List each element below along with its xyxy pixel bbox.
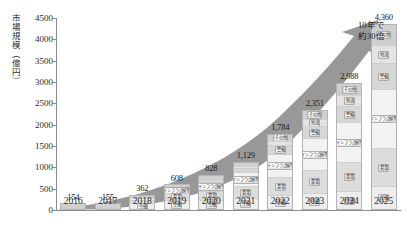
bar-group[interactable]: インフラ点検等農業空撮1,129	[229, 18, 264, 210]
bar-segment[interactable]: 警備	[303, 126, 327, 138]
y-axis-tick-label: 3500	[35, 55, 53, 65]
x-axis-tick-label: 2021	[236, 196, 255, 206]
x-axis-tick-label: 2025	[374, 196, 393, 206]
x-axis-tick-label: 2023	[305, 196, 324, 206]
bar-group[interactable]: インフラ点検等農業空撮828	[194, 18, 229, 210]
bar-segment-label: 農業	[275, 183, 286, 190]
bar-segment[interactable]: インフラ点検等	[268, 154, 292, 177]
bar-segment[interactable]: 物流	[372, 45, 396, 63]
bar-segment[interactable]: インフラ点検等	[234, 172, 258, 185]
bar-segment-label: 農業	[378, 164, 389, 171]
bar-segment[interactable]: インフラ点検等	[337, 122, 361, 162]
stacked-bar[interactable]: その他物流警備インフラ点検等農業空撮	[336, 83, 362, 210]
x-axis-line	[56, 210, 401, 211]
bar-segment[interactable]: 農業	[268, 177, 292, 196]
bar-segment-label: 警備	[378, 73, 389, 80]
annotation-line-1: 10年で	[358, 20, 385, 31]
bar-segment-label: 警備	[344, 111, 355, 118]
bar-segment[interactable]: 農業	[372, 148, 396, 186]
bar-segment[interactable]: 農業	[303, 170, 327, 193]
bar-segment[interactable]: 警備	[268, 145, 292, 154]
bar-group[interactable]: 154	[56, 18, 91, 210]
bar-segment-label: 警備	[275, 146, 286, 153]
bar-segment[interactable]	[96, 208, 120, 209]
y-axis-tick-label: 500	[40, 183, 54, 193]
bar-segment[interactable]	[61, 208, 85, 209]
bar-segment-label: インフラ点検等	[198, 183, 224, 190]
bar-segment-label: 物流	[344, 97, 355, 104]
bar-segment-label: インフラ点検等	[267, 162, 293, 169]
bar-segment-label: インフラ点検等	[336, 139, 362, 146]
y-axis-tick-label: 2500	[35, 98, 53, 108]
bar-value-label: 2,988	[340, 71, 358, 81]
bar-value-label: 362	[136, 183, 148, 193]
y-axis-tick-mark	[53, 210, 56, 211]
x-axis-tick-label: 2018	[133, 196, 152, 206]
bar-group[interactable]: その他物流警備インフラ点検等農業空撮2,351	[298, 18, 333, 210]
bar-segment-label: 物流	[378, 51, 389, 58]
bar-group[interactable]: インフラ点検等農業空撮608	[160, 18, 195, 210]
bar-segment-label: インフラ点検等	[371, 116, 397, 123]
bar-segment[interactable]: 警備	[372, 63, 396, 89]
bar-group[interactable]: その他物流警備インフラ点検等農業空撮4,360	[367, 18, 402, 210]
drone-market-size-chart: 市場規模（億円） 0500100015002000250030003500400…	[0, 0, 407, 243]
stacked-bar[interactable]: その他物流警備インフラ点検等農業空撮	[371, 24, 397, 210]
bar-segment-label: インフラ点検等	[233, 176, 259, 183]
bar-segment[interactable]: インフラ点検等	[372, 89, 396, 148]
x-axis-tick-label: 2024	[340, 196, 359, 206]
bar-segment-label: その他	[307, 111, 322, 118]
annotation-line-2: 約30倍	[358, 31, 385, 42]
bar-segment[interactable]: インフラ点検等	[303, 138, 327, 170]
bar-segment-label: インフラ点検等	[302, 151, 328, 158]
bar-segment[interactable]: インフラ点検等	[199, 182, 223, 191]
bar-segment[interactable]: 警備	[337, 106, 361, 122]
plot-area: 050010001500200025003000350040004500 154…	[56, 18, 401, 210]
x-axis-tick-label: 2017	[98, 196, 117, 206]
y-axis-tick-label: 1500	[35, 141, 53, 151]
bar-value-label: 608	[171, 173, 183, 183]
y-axis-tick-label: 3000	[35, 77, 53, 87]
growth-annotation: 10年で 約30倍	[358, 20, 385, 41]
bar-group[interactable]: 155	[91, 18, 126, 210]
bar-group[interactable]: その他警備インフラ点検等農業空撮1,784	[263, 18, 298, 210]
x-axis-tick-label: 2022	[271, 196, 290, 206]
y-axis-tick-label: 4500	[35, 13, 53, 23]
bar-group[interactable]: その他物流警備インフラ点検等農業空撮2,988	[332, 18, 367, 210]
bar-segment-label: 農業	[344, 174, 355, 181]
bar-segment[interactable]: その他	[337, 84, 361, 96]
x-axis-tick-label: 2016	[64, 196, 83, 206]
x-axis-tick-label: 2019	[167, 196, 186, 206]
bar-segment[interactable]: 物流	[303, 119, 327, 126]
bar-segment-label: その他	[342, 86, 357, 93]
bar-segment[interactable]: 物流	[337, 95, 361, 105]
y-axis-title: 市場規模（億円）	[4, 14, 19, 199]
bar-value-label: 1,129	[237, 150, 255, 160]
bar-series: 154155空撮362インフラ点検等農業空撮608インフラ点検等農業空撮828イ…	[56, 18, 401, 210]
bar-value-label: 2,351	[306, 98, 324, 108]
y-axis-tick-label: 4000	[35, 34, 53, 44]
bar-segment-label: 警備	[309, 129, 320, 136]
stacked-bar[interactable]: その他物流警備インフラ点検等農業空撮	[302, 110, 328, 210]
y-axis-tick-label: 1000	[35, 162, 53, 172]
bar-segment[interactable]: その他	[303, 111, 327, 120]
x-axis-tick-label: 2020	[202, 196, 221, 206]
bar-value-label: 1,784	[271, 122, 289, 132]
bar-value-label: 828	[205, 163, 217, 173]
bar-segment[interactable]: 農業	[337, 162, 361, 191]
y-axis-tick-label: 2000	[35, 119, 53, 129]
bar-group[interactable]: 空撮362	[125, 18, 160, 210]
bar-segment-label: 農業	[309, 178, 320, 185]
